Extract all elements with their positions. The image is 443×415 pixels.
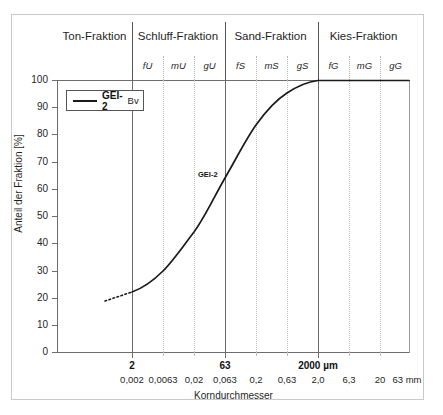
gridline-minor-0-2	[256, 80, 257, 352]
gridline-major-2um	[132, 80, 133, 352]
y-tick-100	[52, 80, 58, 81]
header-separator-ton-schluff	[132, 22, 133, 80]
y-tick-label-0: 0	[14, 346, 48, 357]
y-tick-label-10: 10	[14, 319, 48, 330]
y-axis-title: Anteil der Fraktion [%]	[13, 94, 24, 274]
y-tick-10	[52, 325, 58, 326]
y-tick-60	[52, 189, 58, 190]
plot-bottom-axis	[57, 352, 410, 353]
header-separator-mG-gG	[380, 56, 381, 80]
x-tick-63um	[225, 352, 226, 358]
header-separator-fS-mS	[256, 56, 257, 80]
legend-line-swatch	[73, 100, 97, 102]
y-tick-50	[52, 216, 58, 217]
subfraction-label-fS: fS	[225, 56, 256, 76]
gridline-minor-0-63	[287, 80, 288, 352]
fraction-header-kies: Kies-Fraktion	[317, 22, 410, 50]
subfraction-label-fG: fG	[318, 56, 349, 76]
header-separator-mS-gS	[287, 56, 288, 80]
x-tick-0-63	[287, 352, 288, 356]
legend-box: GEI-2 Bv	[66, 90, 144, 111]
y-tick-80	[52, 134, 58, 135]
gridline-major-2000um	[318, 80, 319, 352]
legend-series-name: GEI-2	[102, 90, 123, 112]
subfraction-label-fU: fU	[132, 56, 163, 76]
y-tick-90	[52, 107, 58, 108]
header-separator-fG-mG	[349, 56, 350, 80]
subfraction-label-mG: mG	[349, 56, 380, 76]
subfraction-label-gG: gG	[380, 56, 411, 76]
plot-top-axis	[57, 80, 410, 81]
header-separator-fU-mU	[163, 56, 164, 80]
x-label-mm-63: 63 mm	[383, 374, 431, 385]
gridline-minor-0-0063	[163, 80, 164, 352]
y-tick-label-20: 20	[14, 292, 48, 303]
x-tick-20	[380, 352, 381, 356]
subfraction-label-mU: mU	[163, 56, 194, 76]
header-separator-sand-kies	[318, 22, 319, 80]
fraction-header-ton: Ton-Fraktion	[57, 22, 132, 50]
fraction-header-sand: Sand-Fraktion	[224, 22, 317, 50]
y-tick-70	[52, 162, 58, 163]
legend-series-horizon: Bv	[128, 95, 139, 106]
gridline-major-63um	[225, 80, 226, 352]
x-tick-0-02	[194, 352, 195, 356]
y-tick-label-100: 100	[14, 74, 48, 85]
x-label-um-2000: 2000 µm	[290, 360, 346, 371]
gridline-minor-0-02	[194, 80, 195, 352]
y-tick-40	[52, 243, 58, 244]
y-tick-0	[52, 352, 58, 353]
x-tick-2um	[132, 352, 133, 358]
x-tick-2000um	[318, 352, 319, 358]
gridline-minor-20	[380, 80, 381, 352]
header-separator-mU-gU	[194, 56, 195, 80]
y-tick-20	[52, 298, 58, 299]
y-tick-30	[52, 271, 58, 272]
header-separator-schluff-sand	[225, 22, 226, 80]
subfraction-label-mS: mS	[256, 56, 287, 76]
x-label-um-63: 63	[205, 360, 245, 371]
x-tick-0-0063	[163, 352, 164, 356]
series-inline-label-gei-2: GEI-2	[198, 170, 218, 179]
grain-size-distribution-figure: Ton-Fraktion Schluff-Fraktion Sand-Frakt…	[0, 0, 443, 415]
fraction-header-schluff: Schluff-Fraktion	[132, 22, 224, 50]
x-label-um-2: 2	[112, 360, 152, 371]
subfraction-label-gS: gS	[287, 56, 318, 76]
x-axis-title: Korndurchmesser	[57, 390, 410, 401]
subfraction-label-gU: gU	[194, 56, 225, 76]
plot-right-axis	[409, 80, 410, 353]
fraction-header-band: Ton-Fraktion Schluff-Fraktion Sand-Frakt…	[57, 22, 410, 80]
x-tick-6-3	[349, 352, 350, 356]
gridline-minor-6-3	[349, 80, 350, 352]
x-tick-0-2	[256, 352, 257, 356]
